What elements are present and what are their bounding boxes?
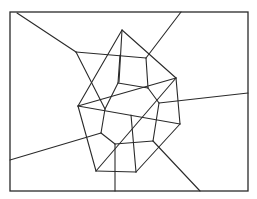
voronoi-edge <box>148 88 159 103</box>
voronoi-edge <box>153 141 200 191</box>
delaunay-triangulation-edges <box>78 30 180 172</box>
voronoi-edge <box>10 133 101 160</box>
delaunay-edge <box>96 78 176 171</box>
voronoi-edge <box>17 13 76 52</box>
voronoi-edge <box>153 103 159 141</box>
voronoi-edge <box>76 52 146 58</box>
voronoi-edge <box>101 133 115 144</box>
delaunay-edge <box>122 30 176 78</box>
delaunay-edge <box>78 78 176 106</box>
voronoi-edge <box>146 12 181 58</box>
delaunay-edge <box>96 171 136 172</box>
voronoi-diagram-svg <box>0 0 257 199</box>
delaunay-edge <box>131 115 136 172</box>
voronoi-edges <box>10 12 248 191</box>
delaunay-edge <box>78 106 180 124</box>
voronoi-edge <box>101 109 105 133</box>
voronoi-edge <box>159 93 248 103</box>
voronoi-edge <box>76 52 105 109</box>
voronoi-diagram-canvas <box>0 0 257 199</box>
voronoi-edge <box>146 58 148 88</box>
bounding-frame <box>10 12 248 191</box>
delaunay-edge <box>136 124 180 172</box>
